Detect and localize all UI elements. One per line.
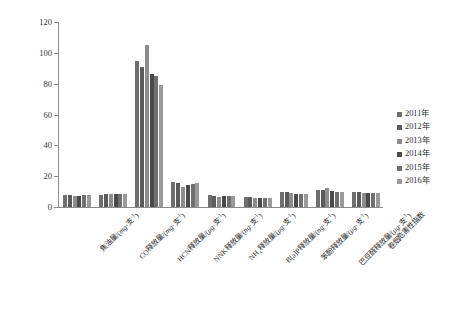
bar bbox=[244, 197, 248, 207]
y-tick-mark bbox=[54, 115, 58, 116]
y-tick-label: 20 bbox=[44, 172, 53, 181]
bar bbox=[208, 195, 212, 207]
bar bbox=[114, 194, 118, 207]
x-axis-labels: 焦油量/(mg·支-1)CO释放量/(mg·支-1)HCN释放量/(μg·支-1… bbox=[58, 207, 383, 320]
legend-label: 2015年 bbox=[405, 164, 430, 172]
bar bbox=[191, 184, 195, 207]
bar bbox=[258, 198, 262, 207]
bar bbox=[87, 195, 91, 207]
legend-label: 2014年 bbox=[405, 150, 430, 158]
legend-swatch-icon bbox=[397, 166, 402, 171]
bar bbox=[109, 194, 113, 207]
bar bbox=[304, 194, 308, 207]
y-tick-mark bbox=[54, 22, 58, 23]
bar bbox=[77, 196, 81, 207]
legend-swatch-icon bbox=[397, 112, 402, 117]
bar bbox=[253, 198, 257, 207]
bar bbox=[299, 194, 303, 207]
bar bbox=[280, 192, 284, 207]
x-tick-label: 焦油量/(mg·支-1) bbox=[98, 211, 141, 254]
bar bbox=[135, 61, 139, 207]
legend-swatch-icon bbox=[397, 139, 402, 144]
bar bbox=[195, 183, 199, 207]
bar bbox=[159, 85, 163, 207]
legend-item[interactable]: 2012年 bbox=[397, 123, 430, 131]
y-tick-label: 0 bbox=[48, 203, 52, 212]
bar bbox=[289, 193, 293, 207]
legend-swatch-icon bbox=[397, 152, 402, 157]
bar bbox=[325, 188, 329, 207]
bar bbox=[362, 193, 366, 207]
bar bbox=[285, 192, 289, 207]
legend-item[interactable]: 2011年 bbox=[397, 110, 430, 118]
chart-legend: 2011年2012年2013年2014年2015年2016年 bbox=[397, 110, 430, 186]
bar bbox=[140, 67, 144, 207]
bar-group bbox=[276, 22, 312, 207]
bar bbox=[330, 191, 334, 207]
legend-label: 2016年 bbox=[405, 177, 430, 185]
y-tick-label: 80 bbox=[44, 79, 53, 88]
bar bbox=[357, 192, 361, 207]
bar bbox=[248, 197, 252, 207]
bar bbox=[376, 193, 380, 207]
legend-label: 2013年 bbox=[405, 137, 430, 145]
y-tick-label: 40 bbox=[44, 141, 53, 150]
bar bbox=[104, 194, 108, 207]
bar bbox=[366, 193, 370, 207]
bar bbox=[123, 194, 127, 207]
y-tick-label: 120 bbox=[39, 18, 52, 27]
bar bbox=[145, 45, 149, 207]
y-tick-mark bbox=[54, 176, 58, 177]
bar bbox=[212, 196, 216, 207]
bar bbox=[217, 197, 221, 207]
bar-group bbox=[167, 22, 203, 207]
y-tick-label: 100 bbox=[39, 49, 52, 58]
y-tick-label: 60 bbox=[44, 110, 53, 119]
bar bbox=[352, 192, 356, 207]
legend-swatch-icon bbox=[397, 179, 402, 184]
bar bbox=[263, 198, 267, 207]
bar bbox=[335, 192, 339, 207]
y-tick-mark bbox=[54, 53, 58, 54]
legend-item[interactable]: 2013年 bbox=[397, 137, 430, 145]
bar bbox=[68, 195, 72, 207]
bar-group bbox=[59, 22, 95, 207]
legend-label: 2012年 bbox=[405, 123, 430, 131]
bar bbox=[99, 195, 103, 207]
bar-group bbox=[203, 22, 239, 207]
bar bbox=[222, 196, 226, 207]
bar bbox=[82, 195, 86, 207]
bar bbox=[321, 190, 325, 207]
plot-area: 020406080100120 bbox=[58, 22, 383, 207]
y-tick-mark bbox=[54, 145, 58, 146]
legend-item[interactable]: 2016年 bbox=[397, 177, 430, 185]
legend-item[interactable]: 2015年 bbox=[397, 164, 430, 172]
bar-group bbox=[348, 22, 384, 207]
y-tick-mark bbox=[54, 84, 58, 85]
bar bbox=[186, 185, 190, 208]
bar-group bbox=[95, 22, 131, 207]
bar bbox=[63, 195, 67, 207]
bar bbox=[118, 194, 122, 207]
bar bbox=[371, 193, 375, 207]
legend-item[interactable]: 2014年 bbox=[397, 150, 430, 158]
bar-group bbox=[131, 22, 167, 207]
bar bbox=[340, 192, 344, 207]
bar bbox=[154, 76, 158, 207]
bar bbox=[171, 182, 175, 207]
bar bbox=[316, 190, 320, 207]
bar-group bbox=[240, 22, 276, 207]
bar bbox=[73, 196, 77, 207]
bars-layer bbox=[59, 22, 383, 207]
bar bbox=[181, 187, 185, 208]
bar bbox=[227, 196, 231, 207]
bar bbox=[268, 198, 272, 207]
legend-swatch-icon bbox=[397, 125, 402, 130]
bar bbox=[150, 74, 154, 207]
bar bbox=[176, 183, 180, 208]
bar-chart: 020406080100120 焦油量/(mg·支-1)CO释放量/(mg·支-… bbox=[0, 0, 455, 320]
bar bbox=[231, 196, 235, 207]
bar bbox=[294, 194, 298, 207]
bar-group bbox=[312, 22, 348, 207]
legend-label: 2011年 bbox=[405, 110, 429, 118]
